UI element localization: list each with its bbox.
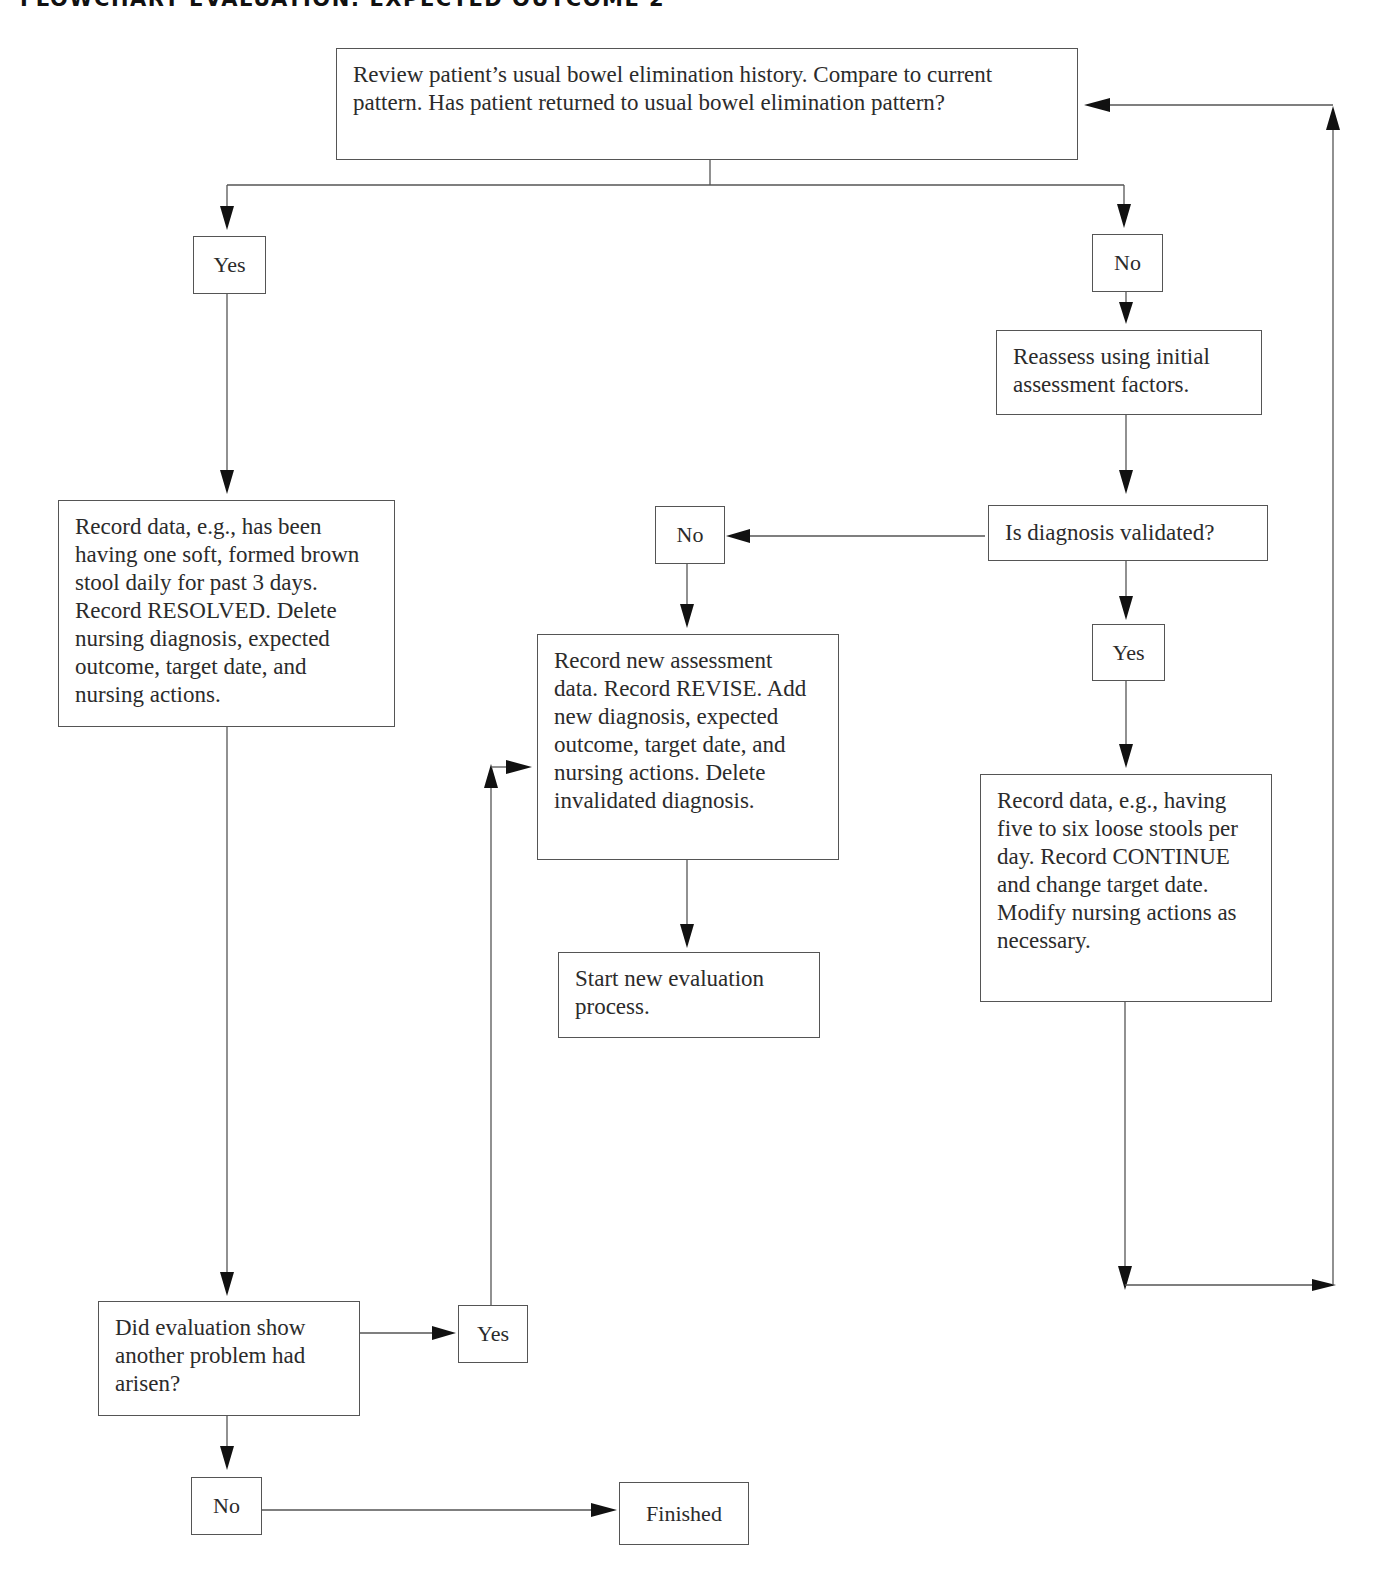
- arrow-right-icon: [506, 760, 532, 774]
- arrow-right-icon: [432, 1326, 456, 1340]
- review-history-box: Review patient’s usual bowel elimination…: [336, 48, 1078, 160]
- finished-label: Finished: [646, 1500, 722, 1528]
- no-bottom-label: No: [213, 1492, 240, 1520]
- arrow-down-icon: [1119, 744, 1133, 768]
- record-revise-box: Record new assessment data. Record REVIS…: [537, 634, 839, 860]
- yes-right-label: Yes: [1112, 639, 1144, 667]
- arrow-down-icon: [220, 1272, 234, 1296]
- another-problem-box: Did evaluation show another problem had …: [98, 1301, 360, 1416]
- yes-right-box: Yes: [1092, 624, 1165, 681]
- yes-bottom-label: Yes: [477, 1320, 509, 1348]
- arrow-down-icon: [1117, 204, 1131, 228]
- no-middle-label: No: [677, 521, 704, 549]
- no-bottom-box: No: [191, 1477, 262, 1535]
- arrow-left-icon: [726, 529, 750, 543]
- start-new-evaluation-box: Start new evaluation process.: [558, 952, 820, 1038]
- diagnosis-validated-box: Is diagnosis validated?: [988, 505, 1268, 561]
- another-problem-text: Did evaluation show another problem had …: [115, 1314, 343, 1398]
- arrow-up-icon: [1326, 106, 1340, 130]
- start-new-evaluation-text: Start new evaluation process.: [575, 965, 803, 1021]
- review-history-text: Review patient’s usual bowel elimination…: [353, 61, 1061, 117]
- finished-box: Finished: [619, 1482, 749, 1545]
- arrow-down-icon: [220, 206, 234, 230]
- diagnosis-validated-text: Is diagnosis validated?: [1005, 519, 1215, 547]
- no-top-label: No: [1114, 249, 1141, 277]
- yes-top-box: Yes: [193, 236, 266, 294]
- reassess-box: Reassess using initial assessment factor…: [996, 330, 1262, 415]
- reassess-text: Reassess using initial assessment factor…: [1013, 343, 1245, 399]
- arrow-down-icon: [1119, 596, 1133, 620]
- record-revise-text: Record new assessment data. Record REVIS…: [554, 647, 822, 815]
- arrow-down-icon: [1119, 302, 1133, 324]
- arrow-down-icon: [1118, 1266, 1132, 1290]
- arrow-right-icon: [591, 1503, 617, 1517]
- no-middle-box: No: [655, 506, 725, 564]
- arrow-down-icon: [220, 470, 234, 494]
- record-continue-text: Record data, e.g., having five to six lo…: [997, 787, 1255, 955]
- arrow-down-icon: [680, 924, 694, 948]
- record-resolved-box: Record data, e.g., has been having one s…: [58, 500, 395, 727]
- yes-top-label: Yes: [213, 251, 245, 279]
- arrow-left-icon: [1084, 98, 1110, 112]
- record-resolved-text: Record data, e.g., has been having one s…: [75, 513, 378, 709]
- record-continue-box: Record data, e.g., having five to six lo…: [980, 774, 1272, 1002]
- no-top-box: No: [1092, 234, 1163, 292]
- yes-bottom-box: Yes: [458, 1305, 528, 1363]
- arrow-down-icon: [220, 1446, 234, 1470]
- arrow-down-icon: [680, 604, 694, 628]
- arrow-down-icon: [1119, 470, 1133, 494]
